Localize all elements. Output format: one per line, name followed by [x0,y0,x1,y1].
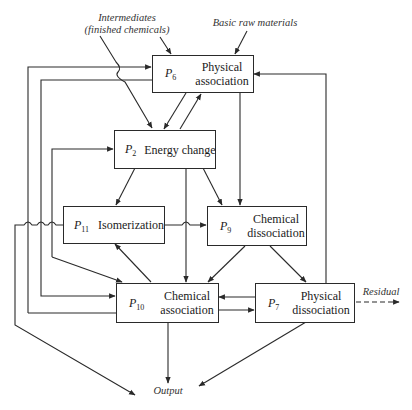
process-id-p9: P9 [220,219,231,235]
process-label-p7: Physical dissociation [288,289,354,317]
output-label: Output [145,385,191,397]
arrow-p7-to-output [199,322,306,386]
arrow-p6-to-p10 [41,80,152,296]
arrow-p9-to-p7 [270,246,306,282]
arrow-p10-to-p11 [115,244,151,282]
process-box-p11: P11 Isomerization [63,206,165,244]
arrow-intermediates-to-p6 [160,37,171,54]
arrow-raw-to-p6 [235,31,247,54]
process-label-p9: Chemical dissociation [244,212,308,240]
residual-label: Residual [356,286,406,298]
input-raw-materials-label: Basic raw materials [205,17,305,29]
arrow-p2-to-p6 [180,94,201,129]
input-intermediates-label: Intermediates (finished chemicals) [62,12,192,36]
arrow-intermediates-to-p2 [100,36,152,128]
process-id-p7: P7 [268,296,279,312]
arrow-p9-to-p10 [208,246,245,282]
process-box-p6: P6 Physical association [152,55,254,93]
arrow-p7-to-p6 [254,74,326,283]
process-id-p6: P6 [165,66,176,82]
process-box-p9: P9 Chemical dissociation [207,206,307,246]
process-label-p2: Energy change [143,143,217,157]
process-box-p2: P2 Energy change [114,130,216,169]
arrow-p2-to-p11 [116,168,135,205]
process-label-p10: Chemical association [155,289,219,317]
arrow-to-p10-diag [52,257,122,282]
process-label-p11: Isomerization [96,218,166,232]
process-id-p10: P10 [129,296,144,312]
process-label-p6: Physical association [189,60,255,88]
process-box-p7: P7 Physical dissociation [255,283,355,323]
process-id-p2: P2 [125,142,136,158]
arrow-p2-to-p9 [203,168,222,205]
process-id-p11: P11 [74,218,89,234]
arrow-feedback-to-p6 [28,67,151,313]
process-box-p10: P10 Chemical association [116,283,219,323]
